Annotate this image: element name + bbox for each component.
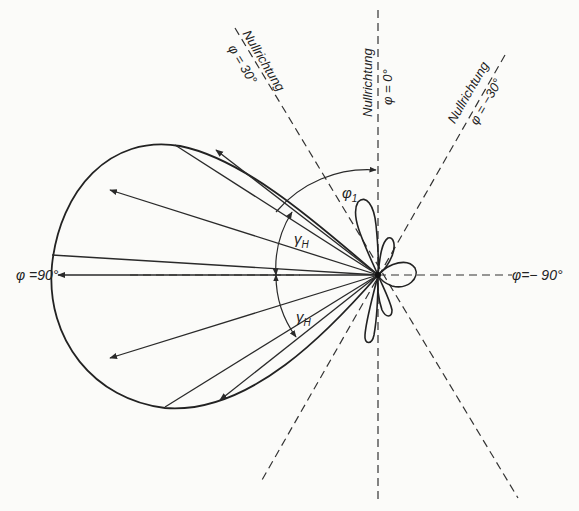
gamma-h-upper-label: γH [294, 230, 310, 250]
side-lobe-lower-right [378, 275, 392, 316]
phi1-arc [276, 170, 376, 212]
radius-arrow-1 [216, 150, 378, 275]
side-lobe-lower-left [365, 275, 378, 343]
radius-line-c [165, 275, 378, 407]
phi-0-label: φ = 0° [380, 69, 395, 105]
origin-point [375, 272, 381, 278]
phi1-symbol: φ1 [342, 184, 357, 204]
radius-arrow-2 [110, 190, 378, 275]
radius-arrow-4 [110, 275, 378, 358]
radius-line-b [52, 255, 378, 275]
radius-arrow-5 [220, 275, 378, 400]
label-null-minus30: Nullrichtung φ = −30° [444, 58, 509, 136]
null-label-0: Nullrichtung [360, 48, 375, 117]
phi-90-label: φ =90° [16, 267, 59, 283]
axis-30deg [235, 28, 518, 498]
phi-minus90-label: φ=− 90° [512, 267, 563, 283]
side-lobe-upper-right [378, 238, 394, 275]
label-null-30: Nullrichtung φ = 30° [223, 27, 289, 105]
gamma-h-arc-upper [276, 212, 292, 275]
radiation-pattern-diagram: Nullrichtung φ = 0° Nullrichtung φ = 30°… [0, 0, 579, 511]
side-lobe-upper-left [355, 199, 378, 275]
